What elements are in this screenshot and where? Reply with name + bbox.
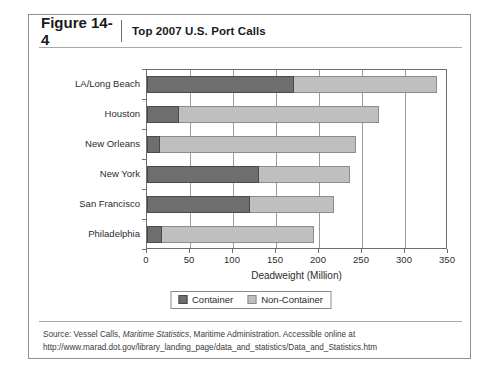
x-tick-label-100: 100 bbox=[224, 254, 240, 265]
figure-header: Figure 14-4 Top 2007 U.S. Port Calls bbox=[29, 15, 470, 47]
y-tick bbox=[142, 129, 146, 130]
bar-segment-container bbox=[147, 76, 294, 93]
stacked-bar bbox=[147, 76, 437, 93]
stacked-bar bbox=[147, 166, 350, 183]
x-tick-100 bbox=[232, 249, 233, 253]
bar-segment-non-container bbox=[179, 106, 379, 123]
bar-segment-non-container bbox=[162, 226, 313, 243]
bar-row bbox=[147, 70, 446, 100]
bar-row bbox=[147, 160, 446, 190]
x-tick-label-350: 350 bbox=[439, 254, 455, 265]
bar-rows bbox=[147, 70, 446, 248]
y-label-san-francisco: San Francisco bbox=[30, 198, 140, 209]
legend-swatch-icon bbox=[178, 295, 187, 304]
bar-segment-non-container bbox=[250, 196, 333, 213]
figure-caption: Top 2007 U.S. Port Calls bbox=[132, 25, 266, 37]
x-tick-label-300: 300 bbox=[396, 254, 412, 265]
source-rule bbox=[39, 321, 462, 322]
stacked-bar bbox=[147, 196, 334, 213]
y-tick bbox=[142, 69, 146, 70]
legend-label: Non-Container bbox=[261, 294, 323, 305]
x-tick-label-200: 200 bbox=[310, 254, 326, 265]
source-italic-title: Maritime Statistics bbox=[123, 330, 189, 339]
bar-segment-container bbox=[147, 166, 259, 183]
source-prefix: Source: Vessel Calls, bbox=[43, 330, 123, 339]
chart-legend: ContainerNon-Container bbox=[170, 291, 331, 309]
plot-area bbox=[146, 69, 447, 249]
legend-item-container: Container bbox=[178, 294, 233, 305]
legend-swatch-icon bbox=[247, 295, 256, 304]
bar-row bbox=[147, 100, 446, 130]
source-note: Source: Vessel Calls, Maritime Statistic… bbox=[43, 328, 461, 354]
legend-item-non-container: Non-Container bbox=[247, 294, 323, 305]
x-tick-label-250: 250 bbox=[353, 254, 369, 265]
bar-segment-non-container bbox=[294, 76, 437, 93]
bar-segment-non-container bbox=[259, 166, 350, 183]
x-tick-label-150: 150 bbox=[267, 254, 283, 265]
x-tick-50 bbox=[189, 249, 190, 253]
bar-row bbox=[147, 190, 446, 220]
x-axis-title: Deadweight (Million) bbox=[146, 270, 447, 281]
x-tick-200 bbox=[318, 249, 319, 253]
y-tick bbox=[142, 219, 146, 220]
stacked-bar bbox=[147, 136, 356, 153]
bar-segment-container bbox=[147, 226, 162, 243]
y-label-new-orleans: New Orleans bbox=[30, 138, 140, 149]
stacked-bar bbox=[147, 226, 314, 243]
bar-segment-non-container bbox=[160, 136, 356, 153]
y-tick bbox=[142, 159, 146, 160]
header-divider bbox=[121, 20, 122, 42]
y-label-houston: Houston bbox=[30, 108, 140, 119]
y-tick bbox=[142, 189, 146, 190]
bar-segment-container bbox=[147, 196, 250, 213]
chart-area: LA/Long BeachHoustonNew OrleansNew YorkS… bbox=[39, 51, 462, 314]
x-tick-label-50: 50 bbox=[184, 254, 195, 265]
bar-row bbox=[147, 130, 446, 160]
figure-number: Figure 14-4 bbox=[29, 14, 121, 48]
x-tick-300 bbox=[404, 249, 405, 253]
y-label-new-york: New York bbox=[30, 168, 140, 179]
bar-segment-container bbox=[147, 106, 179, 123]
x-tick-250 bbox=[361, 249, 362, 253]
x-tick-0 bbox=[146, 249, 147, 253]
header-rule bbox=[39, 47, 462, 48]
bar-row bbox=[147, 220, 446, 250]
bar-segment-container bbox=[147, 136, 160, 153]
legend-label: Container bbox=[192, 294, 233, 305]
y-label-philadelphia: Philadelphia bbox=[30, 228, 140, 239]
y-label-la-long-beach: LA/Long Beach bbox=[30, 78, 140, 89]
y-tick bbox=[142, 99, 146, 100]
figure-frame: Figure 14-4 Top 2007 U.S. Port Calls LA/… bbox=[28, 14, 471, 359]
x-tick-150 bbox=[275, 249, 276, 253]
x-tick-label-0: 0 bbox=[143, 254, 148, 265]
stacked-bar bbox=[147, 106, 379, 123]
x-tick-350 bbox=[447, 249, 448, 253]
